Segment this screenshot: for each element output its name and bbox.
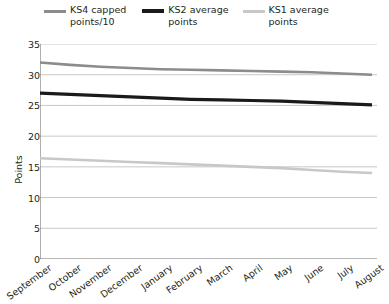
y-tick-label: 10 [14, 192, 40, 203]
legend-label-ks1: KS1 average points [269, 4, 329, 27]
legend-swatch-ks4-icon [44, 10, 66, 13]
chart-legend: KS4 capped points/10 KS2 average points … [0, 4, 377, 44]
y-tick-label: 35 [14, 39, 40, 50]
legend-item-ks1: KS1 average points [243, 4, 329, 27]
plot-canvas [40, 44, 377, 259]
series-line-2 [40, 158, 372, 173]
y-tick-label: 30 [14, 69, 40, 80]
y-tick-label: 20 [14, 131, 40, 142]
x-tick-label: August [379, 242, 389, 270]
x-axis-tick-labels: SeptemberOctoberNovemberDecemberJanuaryF… [40, 256, 377, 304]
legend-item-ks2: KS2 average points [142, 4, 228, 27]
y-tick-label: 0 [14, 254, 40, 265]
y-axis-tick-labels: 05101520253035 [14, 44, 40, 259]
legend-label-ks2: KS2 average points [168, 4, 228, 27]
y-tick-label: 5 [14, 223, 40, 234]
y-tick-label: 15 [14, 161, 40, 172]
legend-item-ks4: KS4 capped points/10 [44, 4, 126, 27]
legend-swatch-ks2-icon [142, 9, 164, 13]
plot-area: Points 05101520253035 SeptemberOctoberNo… [0, 44, 377, 290]
y-tick-label: 25 [14, 100, 40, 111]
legend-swatch-ks1-icon [243, 10, 265, 13]
legend-label-ks4: KS4 capped points/10 [70, 4, 126, 27]
series-line-0 [40, 62, 372, 74]
series-line-1 [40, 93, 372, 105]
